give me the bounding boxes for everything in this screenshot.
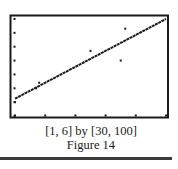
data-point	[120, 60, 122, 62]
data-point	[90, 50, 92, 52]
data-point	[14, 101, 16, 103]
x-tick-mark	[165, 115, 167, 117]
x-tick-mark	[14, 115, 16, 117]
regression-line	[15, 19, 166, 99]
data-point	[38, 82, 40, 84]
y-tick-mark	[14, 60, 16, 62]
scatter-points	[14, 28, 126, 103]
calculator-graph	[0, 0, 178, 124]
x-tick-mark	[74, 115, 76, 117]
window-label: [1, 6] by [30, 100]	[2, 124, 178, 138]
figure-caption: Figure 14	[2, 138, 178, 152]
axis-tick-marks	[14, 18, 168, 117]
y-tick-mark	[14, 32, 16, 34]
y-tick-mark	[14, 46, 16, 48]
y-tick-mark	[14, 18, 16, 20]
x-tick-mark	[135, 115, 137, 117]
x-tick-mark	[44, 115, 46, 117]
data-point	[35, 87, 37, 89]
y-tick-mark	[14, 73, 16, 75]
divider-rule	[0, 157, 172, 160]
x-tick-mark	[105, 115, 107, 117]
data-point	[124, 28, 126, 30]
y-tick-mark	[14, 87, 16, 89]
